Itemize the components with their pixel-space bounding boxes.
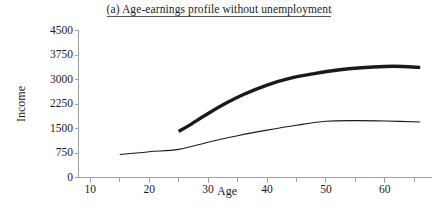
chart-figure: (a) Age-earnings profile without unemplo… [0,0,438,214]
series-line-low-education-profile [120,121,420,155]
axis-lines [79,30,433,178]
data-series-group [120,66,420,154]
series-line-high-education-profile [179,66,421,131]
plot-area [0,0,438,214]
axis-tick-marks [75,31,415,183]
